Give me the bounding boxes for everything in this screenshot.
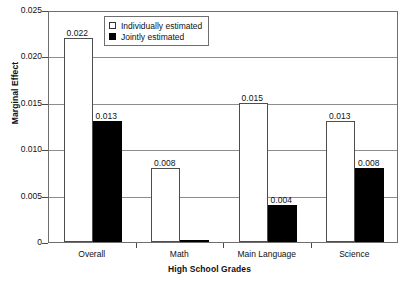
bar-individually-estimated bbox=[151, 168, 180, 242]
marginal-effect-bar-chart: Marginal Effect 00.0050.0100.0150.0200.0… bbox=[0, 0, 419, 285]
bar-value-label: 0.013 bbox=[319, 111, 360, 121]
bar-value-label: 0.008 bbox=[348, 158, 389, 168]
x-axis-title: High School Grades bbox=[0, 264, 419, 274]
x-tick-mark bbox=[311, 243, 312, 248]
x-tick-label: Overall bbox=[47, 249, 137, 260]
x-tick-mark bbox=[136, 243, 137, 248]
y-tick-label: 0.005 bbox=[0, 192, 42, 201]
x-tick-label: Main Language bbox=[222, 249, 312, 260]
bar-jointly-estimated bbox=[268, 205, 297, 242]
legend-label-individually-estimated: Individually estimated bbox=[121, 21, 202, 31]
bar-value-label: 0.004 bbox=[261, 195, 302, 205]
legend-item-jointly-estimated: Jointly estimated bbox=[109, 31, 202, 42]
y-tick-mark bbox=[42, 243, 48, 244]
y-tick-label: 0.020 bbox=[0, 52, 42, 61]
bar-value-label: 0.013 bbox=[86, 111, 127, 121]
y-tick-label: 0.015 bbox=[0, 99, 42, 108]
x-tick-label: Science bbox=[309, 249, 399, 260]
x-tick-mark bbox=[223, 243, 224, 248]
bar-value-label: 0.008 bbox=[144, 158, 185, 168]
legend-item-individually-estimated: Individually estimated bbox=[109, 20, 202, 31]
bar-jointly-estimated bbox=[355, 168, 384, 242]
bar-individually-estimated bbox=[326, 121, 355, 242]
bar-value-label: 0.022 bbox=[57, 28, 98, 38]
legend-swatch-hollow-icon bbox=[109, 22, 116, 29]
y-tick-label: 0.010 bbox=[0, 145, 42, 154]
gridline bbox=[49, 57, 397, 58]
bar-value-label: 0.015 bbox=[232, 93, 273, 103]
legend-label-jointly-estimated: Jointly estimated bbox=[121, 32, 184, 42]
plot-area bbox=[48, 11, 398, 243]
bar-individually-estimated bbox=[64, 38, 93, 242]
chart-legend: Individually estimated Jointly estimated bbox=[104, 16, 209, 46]
bar-individually-estimated bbox=[239, 103, 268, 242]
x-tick-label: Math bbox=[134, 249, 224, 260]
bar-jointly-estimated bbox=[93, 121, 122, 242]
y-tick-label: 0.025 bbox=[0, 6, 42, 15]
gridline bbox=[49, 104, 397, 105]
bar-jointly-estimated bbox=[180, 240, 209, 242]
legend-swatch-solid-icon bbox=[109, 33, 116, 40]
y-tick-label: 0 bbox=[0, 238, 42, 247]
